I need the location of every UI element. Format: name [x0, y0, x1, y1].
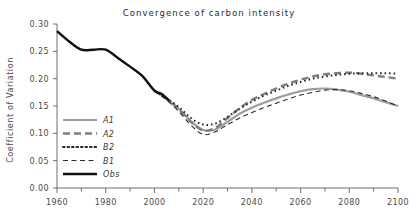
x-tick-label: 2060	[290, 198, 312, 207]
carbon-intensity-line-chart: Convergence of carbon intensity Coeffici…	[0, 0, 418, 218]
legend-label-a1: A1	[102, 116, 114, 125]
y-axis-title: Coefficient of Variation	[6, 57, 15, 163]
legend-label-a2: A2	[102, 130, 114, 139]
x-tick-label: 1980	[95, 198, 117, 207]
x-tick-label: 2100	[387, 198, 409, 207]
series-line-a2	[154, 73, 398, 131]
y-tick-label: 0.30	[30, 20, 49, 29]
y-tick-label: 0.20	[30, 75, 49, 84]
y-tick-label: 0.10	[30, 129, 49, 138]
y-tick-label: 0.25	[30, 47, 49, 56]
x-tick-label: 1960	[46, 198, 68, 207]
x-tick-label: 2020	[192, 198, 214, 207]
series-line-obs	[57, 31, 169, 100]
y-tick-label: 0.05	[30, 157, 49, 166]
legend-label-obs: Obs	[103, 170, 120, 179]
y-axis-ticks: 0.000.050.100.150.200.250.30	[30, 20, 57, 193]
chart-figure: Convergence of carbon intensity Coeffici…	[0, 0, 418, 218]
chart-legend: A1A2B2B1Obs	[63, 116, 120, 179]
chart-title: Convergence of carbon intensity	[123, 8, 296, 18]
x-tick-label: 2000	[143, 198, 165, 207]
series-line-b1	[154, 90, 398, 135]
legend-label-b1: B1	[103, 157, 114, 166]
y-tick-label: 0.15	[30, 102, 49, 111]
legend-label-b2: B2	[103, 143, 114, 152]
y-tick-label: 0.00	[30, 184, 49, 193]
series-line-a1	[154, 88, 398, 130]
x-tick-label: 2040	[241, 198, 263, 207]
x-axis-ticks: 19601980200020202040206020802100	[46, 188, 409, 207]
x-tick-label: 2080	[338, 198, 360, 207]
